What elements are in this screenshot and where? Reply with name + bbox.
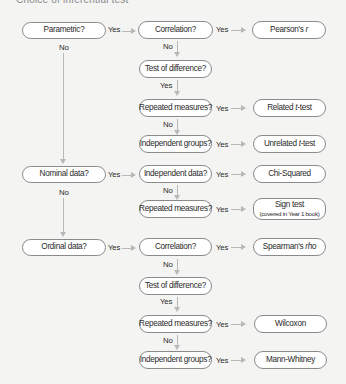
label-no: No: [59, 188, 69, 197]
label-yes: Yes: [216, 140, 228, 149]
node-label: Test of difference?: [145, 282, 206, 290]
node-nominal: Nominal data?: [22, 166, 106, 183]
connector-arrow: [231, 174, 242, 175]
node-label: Spearman's: [263, 242, 305, 251]
label-yes: Yes: [216, 243, 228, 252]
label-yes: Yes: [216, 356, 228, 365]
node-label: Chi-Squared: [268, 170, 311, 178]
node-label: Unrelated: [264, 139, 299, 148]
connector-arrow: [63, 198, 64, 233]
node-label: Repeated measures?: [139, 205, 212, 213]
connector-arrow: [177, 119, 178, 131]
label-no: No: [163, 120, 173, 129]
connector-arrow: [177, 259, 178, 271]
connector-arrow: [231, 360, 242, 361]
node-test-of-difference: Test of difference?: [139, 277, 212, 295]
node-independent-groups: Independent groups?: [139, 135, 212, 153]
node-label: Parametric?: [44, 26, 85, 34]
node-related-t-test: Related t-test: [253, 99, 326, 117]
label-no: No: [163, 42, 173, 51]
connector-arrow: [177, 41, 178, 53]
node-label: Pearson's: [270, 25, 305, 34]
connector-arrow: [177, 335, 178, 346]
node-wilcoxon: Wilcoxon: [254, 315, 327, 333]
node-unrelated-t-test: Unrelated t-test: [253, 135, 326, 153]
label-yes: Yes: [108, 170, 120, 179]
node-label: Ordinal data?: [41, 243, 86, 251]
connector-arrow: [177, 80, 178, 92]
node-label: Related: [267, 103, 295, 112]
node-label: Independent groups?: [140, 140, 212, 148]
header-title-cut: Choice of inferential test: [16, 0, 128, 5]
connector-arrow: [231, 324, 242, 325]
node-mann-whitney: Mann-Whitney: [254, 351, 327, 369]
node-repeated-measures: Repeated measures?: [139, 200, 212, 218]
node-pearsons-r: Pearson's r: [252, 21, 326, 39]
connector-arrow: [231, 30, 242, 31]
label-yes: Yes: [108, 243, 120, 252]
label-yes: Yes: [216, 170, 228, 179]
label-yes: Yes: [216, 25, 228, 34]
label-no: No: [163, 336, 173, 345]
node-label: Test of difference?: [145, 65, 206, 73]
connector-arrow: [177, 185, 178, 196]
node-label: -test: [297, 103, 311, 112]
connector-arrow: [231, 144, 242, 145]
label-no: No: [163, 260, 173, 269]
node-spearmans-rho: Spearman's rho: [253, 238, 326, 256]
label-yes: Yes: [160, 81, 172, 90]
node-label: Correlation?: [155, 26, 196, 34]
label-no: No: [163, 186, 173, 195]
node-repeated-measures: Repeated measures?: [139, 315, 212, 333]
label-yes: Yes: [108, 25, 120, 34]
connector-arrow: [63, 53, 64, 160]
node-label: -test: [301, 139, 315, 148]
node-ordinal: Ordinal data?: [22, 239, 106, 256]
connector-arrow: [122, 31, 132, 32]
node-label: Sign test: [275, 201, 304, 209]
connector-arrow: [231, 108, 242, 109]
label-no: No: [59, 43, 69, 52]
node-sign-test: Sign test(covered in Year 1 book): [253, 198, 326, 220]
node-independent-groups: Independent groups?: [139, 351, 212, 369]
node-independent-data: Independent data?: [139, 165, 212, 183]
node-chi-squared: Chi-Squared: [253, 165, 326, 183]
node-label-italic: r: [306, 25, 308, 34]
node-label-italic: rho: [305, 242, 316, 251]
node-parametric: Parametric?: [22, 22, 106, 39]
node-label: Wilcoxon: [275, 320, 306, 328]
node-correlation: Correlation?: [139, 238, 212, 256]
node-repeated-measures: Repeated measures?: [139, 99, 212, 117]
node-note: (covered in Year 1 book): [260, 211, 320, 217]
connector-arrow: [122, 175, 132, 176]
node-label: Nominal data?: [40, 170, 89, 178]
node-label: Repeated measures?: [139, 320, 212, 328]
connector-arrow: [231, 209, 242, 210]
node-label: Repeated measures?: [139, 104, 212, 112]
connector-arrow: [122, 248, 132, 249]
connector-arrow: [177, 297, 178, 308]
node-label: Independent groups?: [140, 356, 212, 364]
node-label: Mann-Whitney: [266, 356, 315, 364]
label-yes: Yes: [216, 104, 228, 113]
connector-arrow: [231, 247, 242, 248]
label-yes: Yes: [216, 205, 228, 214]
label-yes: Yes: [160, 297, 172, 306]
node-test-of-difference: Test of difference?: [139, 60, 212, 78]
node-label: Independent data?: [144, 170, 207, 178]
label-yes: Yes: [216, 320, 228, 329]
node-label: Correlation?: [155, 243, 196, 251]
node-correlation: Correlation?: [138, 21, 213, 39]
